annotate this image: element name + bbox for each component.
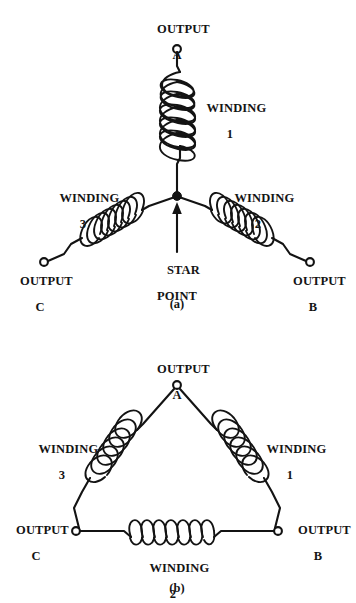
lead-winding2-to-terminal-b-delta xyxy=(214,531,274,537)
label-winding-3-delta: WINDING 3 xyxy=(22,430,102,508)
label-winding-3-star-line1: WINDING xyxy=(59,191,119,205)
label-winding-1-delta-line1: WINDING xyxy=(266,442,326,456)
label-winding-3-delta-line2: 3 xyxy=(22,469,102,482)
label-output-c-star-line1: OUTPUT xyxy=(20,274,73,288)
star-point-arrow xyxy=(172,202,182,252)
label-output-b-star: OUTPUT B xyxy=(275,262,351,340)
label-output-a-delta: OUTPUT A xyxy=(137,350,217,428)
label-output-a-star: OUTPUT A xyxy=(137,10,217,88)
label-output-b-star-line2: B xyxy=(275,301,351,314)
label-output-b-delta-line1: OUTPUT xyxy=(298,523,351,537)
label-winding-2-delta-line1: WINDING xyxy=(149,561,209,575)
label-winding-1-delta-line2: 1 xyxy=(250,469,330,482)
caption-panel-b: (b) xyxy=(147,581,207,596)
label-output-b-delta-line2: B xyxy=(280,550,356,563)
label-output-b-delta: OUTPUT B xyxy=(280,511,356,589)
lead-star-point-to-winding2 xyxy=(179,197,212,210)
label-output-a-delta-line1: OUTPUT xyxy=(157,362,210,376)
label-output-a-star-line1: OUTPUT xyxy=(157,22,210,36)
label-output-a-delta-line2: A xyxy=(137,389,217,402)
label-winding-2-star-line1: WINDING xyxy=(234,191,294,205)
label-winding-1-star: WINDING 1 xyxy=(190,89,270,167)
label-output-c-star-line2: C xyxy=(2,301,78,314)
label-winding-1-delta: WINDING 1 xyxy=(250,430,330,508)
lead-star-point-to-winding3 xyxy=(142,197,175,210)
label-output-c-delta-line2: C xyxy=(0,550,74,563)
label-winding-2-star: WINDING 2 xyxy=(218,179,298,257)
lead-terminal-c-to-winding2-delta xyxy=(80,531,131,537)
label-winding-3-delta-line1: WINDING xyxy=(38,442,98,456)
label-winding-3-star: WINDING 3 xyxy=(43,179,123,257)
label-star-point: STAR POINT xyxy=(139,251,215,329)
star-point-node xyxy=(173,192,182,201)
label-winding-1-star-line2: 1 xyxy=(190,128,270,141)
caption-panel-a: (a) xyxy=(147,297,207,312)
label-output-a-star-line2: A xyxy=(137,49,217,62)
label-output-b-star-line1: OUTPUT xyxy=(293,274,346,288)
label-winding-3-star-line2: 3 xyxy=(43,218,123,231)
label-output-c-delta-line1: OUTPUT xyxy=(16,523,69,537)
label-output-c-star: OUTPUT C xyxy=(2,262,78,340)
label-output-c-delta: OUTPUT C xyxy=(0,511,74,589)
lead-winding1-to-star-point xyxy=(177,146,180,194)
winding-2-coil-delta xyxy=(129,520,214,544)
label-winding-2-star-line2: 2 xyxy=(218,218,298,231)
label-star-point-line1: STAR xyxy=(167,263,200,277)
label-winding-1-star-line1: WINDING xyxy=(206,101,266,115)
